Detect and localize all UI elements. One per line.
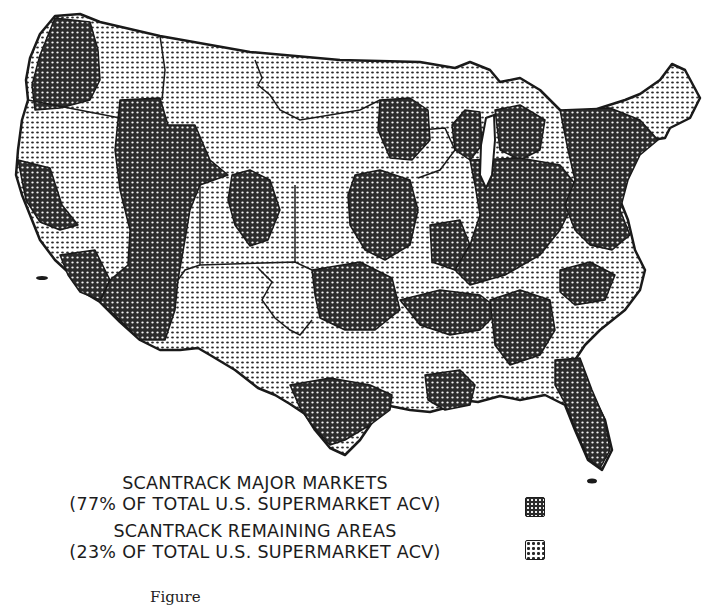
legend-remaining-label: SCANTRACK REMAINING AREAS (0, 521, 510, 541)
legend-major-label: SCANTRACK MAJOR MARKETS (0, 473, 510, 493)
channel-islands (36, 276, 48, 280)
us-scantrack-map (0, 0, 724, 490)
region-houston-san-antonio (290, 378, 392, 445)
florida-keys (587, 479, 597, 484)
legend-swatch-remaining (525, 540, 545, 560)
legend-swatch-major (525, 497, 545, 517)
figure-caption: Figure (150, 588, 201, 606)
legend-major-share: (77% OF TOTAL U.S. SUPERMARKET ACV) (0, 494, 510, 514)
region-northeast (560, 108, 658, 250)
legend-remaining-share: (23% OF TOTAL U.S. SUPERMARKET ACV) (0, 542, 510, 562)
region-florida (555, 358, 610, 468)
